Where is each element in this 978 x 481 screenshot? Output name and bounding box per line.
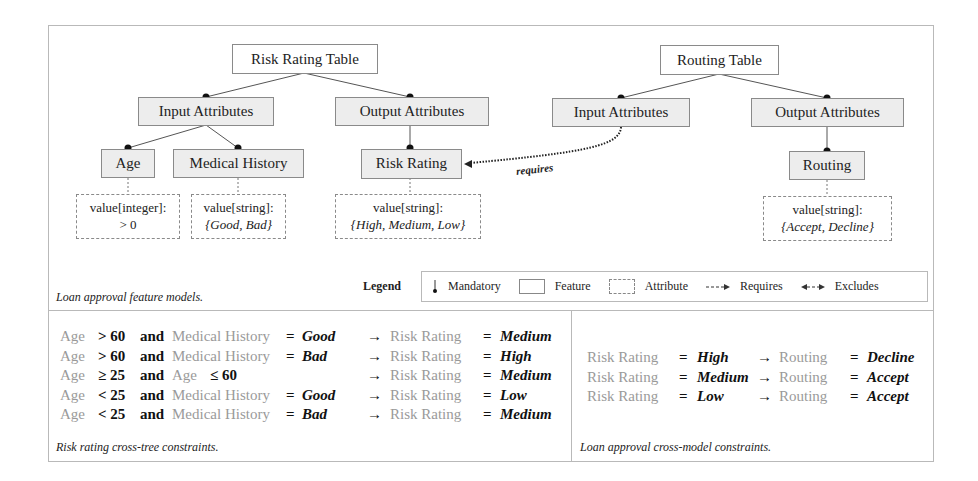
rule-result: Medium xyxy=(500,405,552,425)
rule-result: Low xyxy=(500,386,527,406)
legend-attribute-label: Attribute xyxy=(645,279,688,294)
legend-feature-label: Feature xyxy=(555,279,591,294)
rule-rhs-attr: Medical History xyxy=(172,405,270,425)
rule-lhs-attr: Age xyxy=(60,366,85,386)
rule-lhs-attr: Age xyxy=(60,327,85,347)
rule-target: Routing xyxy=(779,387,827,407)
age-attribute-value: > 0 xyxy=(77,216,179,233)
risk-rating-attribute-type: value[string]: xyxy=(336,199,480,216)
excludes-arrow-icon xyxy=(801,283,825,291)
rule-result: Accept xyxy=(867,368,909,388)
implies-arrow: → xyxy=(757,348,772,368)
requires-arrow-icon xyxy=(706,283,730,291)
rule-eq: = xyxy=(483,327,492,347)
risk-rating-node: Risk Rating xyxy=(361,149,462,179)
cross-model-rule: Risk Rating = High → Routing = Decline xyxy=(587,348,927,368)
rule-rhs-attr: Medical History xyxy=(172,386,270,406)
rule-target: Routing xyxy=(779,368,827,388)
cross-tree-rule: Age ≥ 25 and Age ≤ 60 → Risk Rating = Me… xyxy=(60,366,565,386)
routing-attribute-value: {Accept, Decline} xyxy=(781,219,874,234)
legend-feature: Feature xyxy=(519,279,591,294)
routing-attribute: value[string]: {Accept, Decline} xyxy=(763,196,892,241)
legend-title: Legend xyxy=(363,279,401,294)
cross-tree-rule: Age > 60 and Medical History = Bad → Ris… xyxy=(60,347,565,367)
rule-op: > 60 xyxy=(98,327,125,347)
rule-op: ≥ 25 xyxy=(98,366,125,386)
rule-op2: = xyxy=(286,347,295,367)
rule-op2: = xyxy=(286,327,295,347)
rule-and: and xyxy=(140,366,164,386)
rule-value: Low xyxy=(697,387,724,407)
risk-rating-attribute: value[string]: {High, Medium, Low} xyxy=(335,194,481,239)
legend-excludes: Excludes xyxy=(801,279,879,294)
implies-arrow: → xyxy=(367,347,382,367)
rule-eq: = xyxy=(679,348,688,368)
feature-models-caption: Loan approval feature models. xyxy=(56,290,203,305)
rule-result: Decline xyxy=(867,348,914,368)
implies-arrow: → xyxy=(367,366,382,386)
rule-value: Medium xyxy=(697,368,749,388)
rule-target: Routing xyxy=(779,348,827,368)
legend-requires-label: Requires xyxy=(740,279,783,294)
rule-lhs-attr: Risk Rating xyxy=(587,348,658,368)
rule-eq: = xyxy=(483,386,492,406)
rule-eq2: = xyxy=(850,387,859,407)
rule-rhs-attr: Medical History xyxy=(172,327,270,347)
rule-value: High xyxy=(697,348,729,368)
rule-lhs-attr: Age xyxy=(60,386,85,406)
risk-rating-attribute-value: {High, Medium, Low} xyxy=(351,217,465,232)
rule-lhs-attr: Risk Rating xyxy=(587,387,658,407)
legend-box: Mandatory Feature Attribute Requires Exc… xyxy=(421,271,928,302)
rule-and: and xyxy=(140,386,164,406)
implies-arrow: → xyxy=(757,387,772,407)
cross-tree-rule: Age > 60 and Medical History = Good → Ri… xyxy=(60,327,565,347)
rule-eq: = xyxy=(679,387,688,407)
implies-arrow: → xyxy=(367,405,382,425)
rule-lhs-attr: Age xyxy=(60,347,85,367)
rule-target: Risk Rating xyxy=(390,405,461,425)
rule-eq2: = xyxy=(850,368,859,388)
medical-history-attribute: value[string]: {Good, Bad} xyxy=(191,194,286,239)
rule-result: Medium xyxy=(500,366,552,386)
mandatory-icon xyxy=(432,280,438,294)
medical-history-node: Medical History xyxy=(173,149,304,178)
routing-attribute-type: value[string]: xyxy=(764,201,891,218)
rule-eq: = xyxy=(679,368,688,388)
risk-rating-table-node: Risk Rating Table xyxy=(232,44,378,74)
cross-tree-rule: Age < 25 and Medical History = Bad → Ris… xyxy=(60,405,565,425)
right-input-attributes-node: Input Attributes xyxy=(552,98,690,127)
medical-history-attribute-value: {Good, Bad} xyxy=(205,217,272,232)
legend-requires: Requires xyxy=(706,279,783,294)
medical-history-attribute-type: value[string]: xyxy=(192,199,285,216)
rule-and: and xyxy=(140,405,164,425)
rule-rhs-attr: Medical History xyxy=(172,347,270,367)
age-node: Age xyxy=(101,149,155,178)
rule-op: < 25 xyxy=(98,405,125,425)
rule-result: High xyxy=(500,347,532,367)
right-output-attributes-node: Output Attributes xyxy=(751,98,904,127)
age-attribute: value[integer]: > 0 xyxy=(76,194,180,239)
rule-eq2: = xyxy=(850,348,859,368)
implies-arrow: → xyxy=(367,327,382,347)
cross-model-caption: Loan approval cross-model constraints. xyxy=(580,440,771,455)
rule-result: Medium xyxy=(500,327,552,347)
rule-target: Risk Rating xyxy=(390,347,461,367)
cross-tree-caption: Risk rating cross-tree constraints. xyxy=(56,440,218,455)
rule-op: > 60 xyxy=(98,347,125,367)
left-input-attributes-node: Input Attributes xyxy=(138,97,274,126)
cross-model-rule: Risk Rating = Medium → Routing = Accept xyxy=(587,368,927,388)
routing-table-node: Routing Table xyxy=(660,45,779,75)
rule-lhs-attr: Age xyxy=(60,405,85,425)
rule-eq: = xyxy=(483,366,492,386)
cross-model-rule: Risk Rating = Low → Routing = Accept xyxy=(587,387,927,407)
cross-model-rules: Risk Rating = High → Routing = Decline R… xyxy=(587,348,927,407)
rule-value: Bad xyxy=(302,405,327,425)
rule-op2: ≤ 60 xyxy=(210,366,237,386)
rule-op2: = xyxy=(286,405,295,425)
feature-box-icon xyxy=(519,279,545,294)
rule-result: Accept xyxy=(867,387,909,407)
age-attribute-type: value[integer]: xyxy=(77,199,179,216)
left-output-attributes-node: Output Attributes xyxy=(335,97,489,126)
rule-target: Risk Rating xyxy=(390,386,461,406)
rule-value: Bad xyxy=(302,347,327,367)
